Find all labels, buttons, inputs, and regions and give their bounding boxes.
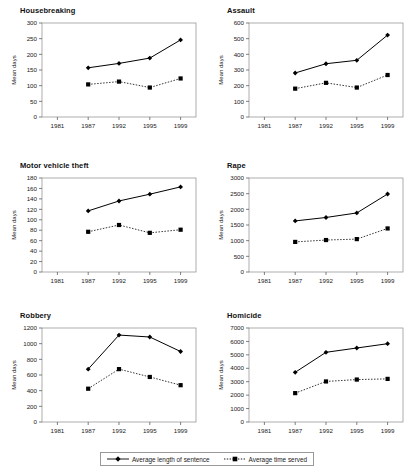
diamond-marker xyxy=(147,56,152,61)
y-tick-label: 100 xyxy=(27,82,38,89)
y-tick-label: 6000 xyxy=(230,338,244,345)
y-tick-label: 600 xyxy=(27,371,38,378)
x-tick-label: 1992 xyxy=(112,427,126,434)
chart-title: Robbery xyxy=(20,311,203,321)
y-tick-label: 7000 xyxy=(230,324,244,331)
diamond-marker-icon xyxy=(107,455,129,463)
x-tick-label: 1995 xyxy=(143,122,157,129)
square-marker xyxy=(324,379,328,383)
x-tick-label: 1981 xyxy=(258,427,272,434)
plot-area: 050010001500200025003000Mean days1981198… xyxy=(211,172,410,300)
y-tick-label: 100 xyxy=(234,98,245,105)
y-tick-label: 200 xyxy=(27,403,38,410)
square-marker xyxy=(86,230,90,234)
y-tick-label: 400 xyxy=(27,387,38,394)
square-marker xyxy=(324,81,328,85)
y-tick-label: 1500 xyxy=(230,221,244,228)
y-tick-label: 100 xyxy=(27,216,38,223)
x-tick-label: 1981 xyxy=(51,277,65,284)
y-tick-label: 0 xyxy=(34,268,38,275)
diamond-marker xyxy=(324,61,329,66)
x-tick-label: 1995 xyxy=(143,427,157,434)
square-marker xyxy=(117,79,121,83)
y-tick-label: 0 xyxy=(241,113,245,120)
plot-area: 0100200300400500600Mean days198119871992… xyxy=(211,17,410,145)
x-tick-label: 1999 xyxy=(381,122,395,129)
x-tick-label: 1987 xyxy=(81,277,95,284)
series-line-0 xyxy=(295,35,387,73)
y-tick-label: 400 xyxy=(234,51,245,58)
x-tick-label: 1987 xyxy=(288,427,302,434)
series-line-0 xyxy=(88,335,180,369)
chart-svg-4: 020040060080010001200Mean days1981198719… xyxy=(4,322,203,450)
legend-label: Average time served xyxy=(249,456,308,463)
square-marker xyxy=(386,377,390,381)
diamond-marker xyxy=(117,199,122,204)
y-tick-label: 120 xyxy=(27,206,38,213)
y-tick-label: 3000 xyxy=(230,378,244,385)
chart-svg-5: 01000200030004000500060007000Mean days19… xyxy=(211,322,410,450)
x-tick-label: 1999 xyxy=(174,122,188,129)
y-tick-label: 80 xyxy=(30,226,37,233)
y-tick-label: 2000 xyxy=(230,206,244,213)
x-tick-label: 1981 xyxy=(258,277,272,284)
y-axis-title: Mean days xyxy=(11,210,17,239)
x-tick-label: 1995 xyxy=(350,427,364,434)
x-tick-label: 1987 xyxy=(81,427,95,434)
y-tick-label: 5000 xyxy=(230,351,244,358)
y-tick-label: 300 xyxy=(27,19,38,26)
diamond-marker xyxy=(178,38,183,43)
series-line-1 xyxy=(295,228,387,241)
y-tick-label: 250 xyxy=(27,35,38,42)
figure-legend: Average length of sentence Average time … xyxy=(0,452,414,466)
chart-panel-homicide: Homicide 01000200030004000500060007000Me… xyxy=(207,305,414,445)
y-tick-label: 800 xyxy=(27,356,38,363)
y-tick-label: 40 xyxy=(30,247,37,254)
diamond-marker xyxy=(86,209,91,214)
x-tick-label: 1995 xyxy=(143,277,157,284)
y-tick-label: 20 xyxy=(30,258,37,265)
plot-frame xyxy=(249,328,403,422)
legend-label: Average length of sentence xyxy=(132,456,210,463)
y-axis-title: Mean days xyxy=(218,360,224,389)
square-marker xyxy=(293,87,297,91)
y-axis-title: Mean days xyxy=(218,210,224,239)
diamond-marker xyxy=(178,184,183,189)
x-tick-label: 1992 xyxy=(319,427,333,434)
series-line-0 xyxy=(295,344,387,373)
square-marker xyxy=(355,85,359,89)
y-tick-label: 1000 xyxy=(230,405,244,412)
square-marker xyxy=(355,377,359,381)
chart-svg-0: 050100150200250300Mean days1981198719921… xyxy=(4,17,203,145)
x-tick-label: 1999 xyxy=(174,427,188,434)
chart-title: Homicide xyxy=(227,311,410,321)
legend-box: Average length of sentence Average time … xyxy=(100,452,314,466)
y-tick-label: 180 xyxy=(27,174,38,181)
y-tick-label: 2000 xyxy=(230,391,244,398)
square-marker xyxy=(293,391,297,395)
chart-svg-2: 020406080100120140160180Mean days1981198… xyxy=(4,172,203,300)
y-tick-label: 2500 xyxy=(230,190,244,197)
square-marker xyxy=(355,237,359,241)
x-tick-label: 1987 xyxy=(288,122,302,129)
y-tick-label: 0 xyxy=(34,113,38,120)
chart-panel-robbery: Robbery 020040060080010001200Mean days19… xyxy=(0,305,207,445)
y-tick-label: 0 xyxy=(241,268,245,275)
square-marker xyxy=(324,238,328,242)
figure-panel-grid: Housebreaking 050100150200250300Mean day… xyxy=(0,0,414,470)
plot-frame xyxy=(42,23,196,117)
series-line-1 xyxy=(295,75,387,89)
y-tick-label: 150 xyxy=(27,66,38,73)
square-marker xyxy=(179,76,183,80)
chart-panel-assault: Assault 0100200300400500600Mean days1981… xyxy=(207,0,414,155)
legend-item-time-served: Average time served xyxy=(224,455,308,463)
y-tick-label: 200 xyxy=(27,51,38,58)
y-axis-title: Mean days xyxy=(11,360,17,389)
legend-item-sentence: Average length of sentence xyxy=(107,455,210,463)
diamond-marker xyxy=(354,346,359,351)
chart-svg-1: 0100200300400500600Mean days198119871992… xyxy=(211,17,410,145)
chart-panel-housebreaking: Housebreaking 050100150200250300Mean day… xyxy=(0,0,207,155)
x-tick-label: 1999 xyxy=(174,277,188,284)
plot-area: 020040060080010001200Mean days1981198719… xyxy=(4,322,203,450)
y-tick-label: 3000 xyxy=(230,174,244,181)
